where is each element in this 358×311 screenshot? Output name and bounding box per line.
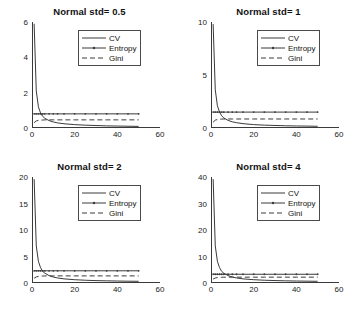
series-marker (57, 270, 59, 272)
legend-item-cv: CV (81, 188, 137, 198)
y-tick-label: 4 (24, 53, 28, 62)
series-marker (84, 113, 86, 115)
series-marker (219, 273, 221, 275)
y-tick-label: 6 (24, 18, 28, 27)
series-marker (74, 270, 76, 272)
legend-sample-cv (260, 33, 286, 43)
legend-sample-entropy (81, 43, 107, 53)
series-marker (116, 113, 118, 115)
series-marker (231, 273, 233, 275)
series-marker (227, 273, 229, 275)
y-tick-label: 0 (203, 124, 207, 133)
plot-area: 010203040 0204060 CVEntropyGini (211, 177, 339, 283)
series-marker (106, 113, 108, 115)
legend-item-gini: Gini (260, 208, 316, 218)
x-tick-label: 60 (156, 285, 165, 294)
legend-sample-cv (81, 33, 107, 43)
series-marker (40, 113, 42, 115)
legend-label: CV (109, 34, 120, 43)
legend-sample-gini (81, 53, 107, 63)
legend-sample-entropy (260, 43, 286, 53)
series-marker (33, 113, 35, 115)
x-tick-label: 60 (335, 285, 344, 294)
series-marker (44, 270, 46, 272)
series-marker (242, 273, 244, 275)
y-tick-label: 0 (24, 279, 28, 288)
series-marker (48, 270, 50, 272)
series-marker (236, 273, 238, 275)
series-marker (63, 113, 65, 115)
series-marker (236, 111, 238, 113)
plot-area: 05101520 0204060 CVEntropyGini (32, 177, 160, 283)
legend-item-entropy: Entropy (260, 198, 316, 208)
series-marker (44, 113, 46, 115)
x-tick-label: 40 (292, 285, 301, 294)
series-marker (306, 273, 308, 275)
legend-label: Entropy (109, 199, 137, 208)
y-tick-label: 0 (24, 124, 28, 133)
x-tick-label: 40 (113, 130, 122, 139)
series-marker (219, 111, 221, 113)
series-marker (35, 113, 37, 115)
legend-label: Gini (288, 54, 302, 63)
series-marker (263, 111, 265, 113)
x-tick-label: 0 (30, 130, 34, 139)
chart-legend: CVEntropyGini (78, 185, 141, 221)
plot-area: 0510 0204060 CVEntropyGini (211, 22, 339, 128)
y-tick-label: 40 (198, 173, 207, 182)
series-marker (57, 113, 59, 115)
series-marker (221, 111, 223, 113)
series-marker (38, 113, 40, 115)
legend-label: CV (288, 189, 299, 198)
y-tick-label: 30 (198, 199, 207, 208)
legend-item-entropy: Entropy (81, 43, 137, 53)
series-marker (317, 111, 319, 113)
y-tick-label: 10 (19, 226, 28, 235)
legend-label: Entropy (288, 44, 316, 53)
chart-title: Normal std= 0.5 (0, 6, 179, 17)
x-tick-label: 0 (209, 130, 213, 139)
x-tick-label: 40 (292, 130, 301, 139)
y-tick-label: 20 (19, 173, 28, 182)
series-marker (274, 273, 276, 275)
chart-title: Normal std= 4 (179, 161, 358, 172)
series-marker (214, 273, 216, 275)
figure-canvas: Normal std= 0.5 0246 0204060 CVEntropyGi… (0, 0, 358, 311)
series-marker (42, 270, 44, 272)
series-marker (48, 113, 50, 115)
series-marker (223, 273, 225, 275)
series-marker (285, 273, 287, 275)
x-tick-label: 20 (249, 285, 258, 294)
chart-title: Normal std= 2 (0, 161, 179, 172)
series-marker (95, 113, 97, 115)
series-marker (116, 270, 118, 272)
series-marker (127, 270, 129, 272)
y-tick-label: 5 (24, 252, 28, 261)
series-marker (223, 111, 225, 113)
series-marker (285, 111, 287, 113)
y-tick-label: 10 (198, 18, 207, 27)
legend-item-entropy: Entropy (81, 198, 137, 208)
series-marker (217, 273, 219, 275)
plot-area: 0246 0204060 CVEntropyGini (32, 22, 160, 128)
series-marker (52, 113, 54, 115)
series-marker (106, 270, 108, 272)
chart-legend: CVEntropyGini (257, 185, 320, 221)
series-line-gini (34, 276, 139, 278)
series-marker (242, 111, 244, 113)
legend-item-cv: CV (260, 188, 316, 198)
series-marker (317, 273, 319, 275)
series-marker (33, 270, 35, 272)
series-marker (212, 273, 214, 275)
legend-label: CV (288, 34, 299, 43)
legend-label: Gini (109, 209, 123, 218)
legend-item-cv: CV (260, 33, 316, 43)
series-marker (212, 111, 214, 113)
series-marker (231, 111, 233, 113)
y-tick-label: 20 (198, 226, 207, 235)
chart-legend: CVEntropyGini (78, 30, 141, 66)
chart-panel-2: Normal std= 2 05101520 0204060 CVEntropy… (0, 155, 179, 310)
x-tick-label: 20 (249, 130, 258, 139)
y-tick-label: 2 (24, 88, 28, 97)
series-marker (295, 111, 297, 113)
